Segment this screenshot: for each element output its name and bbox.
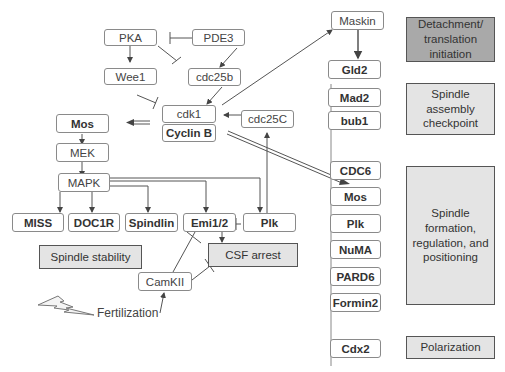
target-gld2: Gld2 [328,60,381,79]
node-miss: MISS [12,213,64,232]
label-fertilization: Fertilization [97,306,158,320]
node-pde3: PDE3 [192,29,245,46]
node-cdk1: cdk1 [162,105,216,123]
label-spindle-stability: Spindle stability [39,245,142,269]
target-mad2: Mad2 [328,88,381,107]
node-pka: PKA [104,29,157,46]
node-wee1: Wee1 [104,68,157,85]
node-plk: Plk [243,213,296,232]
node-doc1r: DOC1R [68,213,120,232]
node-mapk: MAPK [58,173,110,192]
node-mek: MEK [56,143,109,162]
label-csf-arrest: CSF arrest [208,243,298,267]
function-spindle-formation: Spindle formation, regulation, and posit… [406,166,495,305]
node-mos: Mos [56,114,109,133]
target-cdx2: Cdx2 [330,339,381,358]
node-spindlin: Spindlin [125,213,178,232]
target-mos: Mos [330,187,381,206]
node-camkii: CamKII [138,272,192,291]
target-formin2: Formin2 [330,293,381,312]
node-emi12: Emi1/2 [183,213,236,232]
node-cyclin-b: Cyclin B [162,124,216,142]
target-pard6: PARD6 [330,267,381,286]
target-cdc6: CDC6 [330,161,381,180]
function-polarization: Polarization [406,336,495,359]
target-numa: NuMA [330,240,381,259]
node-cdc25c: cdc25C [241,110,294,128]
target-plk: Plk [330,214,381,233]
node-maskin: Maskin [331,11,384,30]
function-spindle-assembly-checkpoint: Spindle assembly checkpoint [406,83,495,135]
target-bub1: bub1 [328,111,381,130]
oocyte-pathway-diagram: PKA PDE3 Wee1 cdc25b cdk1 Cyclin B cdc25… [0,0,505,372]
function-detachment: Detachment/ translation initiation [406,17,495,62]
node-cdc25b: cdc25b [188,68,241,86]
